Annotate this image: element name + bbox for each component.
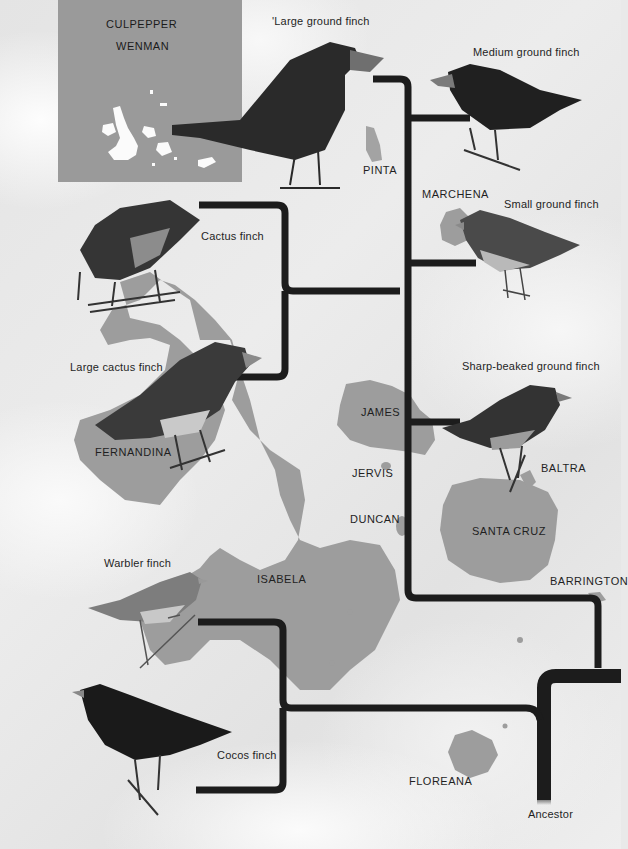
island-label-jervis: JERVIS (352, 467, 393, 479)
island-label-marchena: MARCHENA (422, 188, 489, 200)
island-label-santa-cruz: SANTA CRUZ (472, 525, 546, 537)
species-label-sharp-beaked-ground-finch: Sharp-beaked ground finch (462, 360, 600, 372)
island-label-duncan: DUNCAN (350, 513, 400, 525)
island-label-isabela: ISABELA (257, 573, 306, 585)
bird-cactus-finch-icon (78, 200, 200, 312)
bird-warbler-finch-icon (88, 572, 208, 668)
bird-sharp-beaked-finch-icon (442, 385, 572, 492)
bird-large-ground-finch-icon (172, 42, 384, 188)
island-label-floreana: FLOREANA (409, 775, 472, 787)
species-label-warbler-finch: Warbler finch (104, 557, 171, 569)
species-label-cocos-finch: Cocos finch (217, 749, 277, 761)
root-label-ancestor: Ancestor (528, 808, 573, 820)
species-label-small-ground-finch: Small ground finch (504, 198, 599, 210)
bird-cocos-finch-icon (72, 684, 232, 815)
bird-medium-ground-finch-icon (430, 64, 582, 170)
species-label-medium-ground-finch: Medium ground finch (473, 46, 580, 58)
species-label-cactus-finch: Cactus finch (201, 230, 264, 242)
island-label-fernandina: FERNANDINA (95, 446, 172, 458)
species-label-large-cactus-finch: Large cactus finch (70, 361, 163, 373)
bird-small-ground-finch-icon (455, 210, 580, 300)
island-label-barrington: BARRINGTON (550, 575, 628, 587)
species-label-large-ground-finch: 'Large ground finch (272, 15, 370, 27)
island-label-james: JAMES (361, 406, 400, 418)
island-label-pinta: PINTA (363, 164, 397, 176)
island-label-baltra: BALTRA (541, 462, 586, 474)
